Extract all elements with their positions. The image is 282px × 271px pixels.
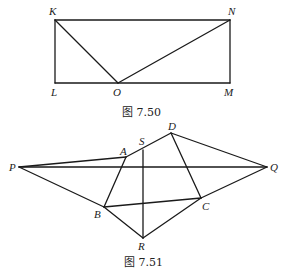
geometry-diagrams: K N L O M 图 7.50 P A S D Q B C R 图 7.51	[0, 0, 282, 271]
segment-DC	[171, 133, 201, 198]
figure-7-50: K N L O M 图 7.50	[48, 5, 236, 119]
segment-PA	[19, 157, 126, 167]
label-D: D	[167, 120, 176, 132]
label-P: P	[8, 161, 16, 173]
segment-CQ	[201, 167, 267, 198]
caption-fig-7-51: 图 7.51	[124, 256, 163, 269]
segment-BC	[104, 198, 201, 207]
label-L: L	[50, 86, 57, 98]
label-A: A	[119, 145, 127, 157]
label-S: S	[139, 135, 145, 147]
label-Q: Q	[270, 161, 278, 173]
segment-DQ	[171, 133, 267, 167]
segment-AD	[126, 133, 171, 157]
label-K: K	[48, 5, 57, 17]
segment-KO	[55, 20, 118, 83]
figure-7-51: P A S D Q B C R 图 7.51	[8, 120, 278, 269]
label-O: O	[113, 86, 121, 98]
segment-RC	[143, 198, 201, 238]
label-C: C	[202, 200, 210, 212]
segment-PB	[19, 167, 104, 207]
label-R: R	[137, 240, 145, 252]
segment-BR	[104, 207, 143, 238]
segment-AB	[104, 157, 126, 207]
label-B: B	[94, 208, 101, 220]
caption-fig-7-50: 图 7.50	[122, 106, 161, 119]
segment-ON	[118, 20, 230, 83]
label-N: N	[227, 5, 236, 17]
label-M: M	[223, 86, 234, 98]
